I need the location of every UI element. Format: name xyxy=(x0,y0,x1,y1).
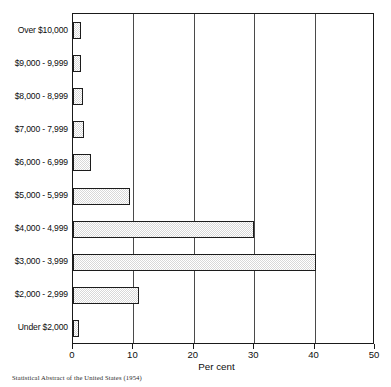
bar xyxy=(73,254,316,271)
bar xyxy=(73,221,254,238)
category-label: $7,000 - 7,999 xyxy=(0,112,68,145)
x-tick-label: 0 xyxy=(52,349,92,360)
bar-row xyxy=(73,213,375,246)
x-tick-label: 40 xyxy=(294,349,334,360)
bar xyxy=(73,88,83,105)
bar xyxy=(73,188,130,205)
category-label: Over $10,000 xyxy=(0,13,68,46)
bar xyxy=(73,55,81,72)
source-note: Statistical Abstract of the United State… xyxy=(12,374,142,381)
income-distribution-bar-chart: Over $10,000$9,000 - 9,999$8,000 - 8,999… xyxy=(0,0,391,387)
bar xyxy=(73,154,91,171)
x-tick-label: 10 xyxy=(112,349,152,360)
bar xyxy=(73,22,81,39)
bar-row xyxy=(73,146,375,179)
category-label: $2,000 - 2,999 xyxy=(0,278,68,311)
category-label: $6,000 - 6,999 xyxy=(0,145,68,178)
x-axis-title-text: Per cent xyxy=(198,361,235,372)
bars-container xyxy=(73,14,373,343)
plot-area xyxy=(72,13,374,344)
bar-row xyxy=(73,312,375,345)
category-label: $9,000 - 9,999 xyxy=(0,46,68,79)
bar-row xyxy=(73,80,375,113)
category-label: $3,000 - 3,999 xyxy=(0,245,68,278)
category-label: Under $2,000 xyxy=(0,311,68,344)
category-label: $4,000 - 4,999 xyxy=(0,212,68,245)
bar-row xyxy=(73,180,375,213)
bar-row xyxy=(73,47,375,80)
x-tick-label: 20 xyxy=(173,349,213,360)
category-label: $8,000 - 8,999 xyxy=(0,79,68,112)
bar-row xyxy=(73,14,375,47)
category-axis-labels: Over $10,000$9,000 - 9,999$8,000 - 8,999… xyxy=(0,13,68,344)
bar-row xyxy=(73,113,375,146)
x-tick-label: 50 xyxy=(354,349,391,360)
category-label: $5,000 - 5,999 xyxy=(0,179,68,212)
bar-row xyxy=(73,279,375,312)
bar xyxy=(73,287,139,304)
bar xyxy=(73,320,79,337)
bar-row xyxy=(73,246,375,279)
x-axis-title: Per cent xyxy=(0,361,391,372)
x-tick-label: 30 xyxy=(233,349,273,360)
bar xyxy=(73,121,84,138)
